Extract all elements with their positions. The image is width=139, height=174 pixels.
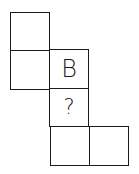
net-cell-top-left-lower <box>10 50 50 90</box>
net-cell-bottom-left <box>50 126 90 166</box>
net-cell-bottom-right <box>89 126 129 166</box>
face-label-question: ? <box>63 97 74 118</box>
net-cell-face-unknown: ? <box>49 88 89 127</box>
net-cell-top-left-upper <box>10 12 50 51</box>
face-label-b: B <box>61 57 77 81</box>
net-cell-face-b: B <box>49 49 89 89</box>
